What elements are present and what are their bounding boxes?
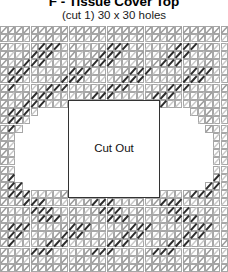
cut-out-label: Cut Out [94, 142, 134, 155]
pattern-sheet: F - Tissue Cover Top (cut 1) 30 x 30 hol… [0, 0, 228, 272]
page-title: F - Tissue Cover Top [0, 0, 228, 7]
plastic-canvas-chart: Cut Out [0, 26, 228, 272]
cut-out-window: Cut Out [68, 100, 159, 198]
page-subtitle: (cut 1) 30 x 30 holes [0, 9, 228, 22]
chart-heading: F - Tissue Cover Top (cut 1) 30 x 30 hol… [0, 0, 228, 22]
